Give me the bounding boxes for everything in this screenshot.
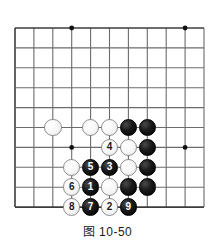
star-point-2 <box>69 145 74 150</box>
black-move-7[interactable]: 7 <box>82 198 100 216</box>
stone-label: 3 <box>107 162 113 172</box>
stone-label: 7 <box>88 202 94 212</box>
stone-label: 2 <box>107 202 113 212</box>
white-move-2[interactable]: 2 <box>101 198 119 216</box>
black-stone-c7r6[interactable] <box>139 139 157 157</box>
stone-label: 8 <box>69 202 75 212</box>
star-point-0 <box>69 26 74 31</box>
star-point-3 <box>183 145 188 150</box>
figure-caption: 图 10-50 <box>0 222 215 239</box>
go-diagram-figure: 453618729 图 10-50 <box>0 0 215 248</box>
stone-label: 9 <box>126 202 132 212</box>
black-stone-c7r7[interactable] <box>139 159 157 177</box>
black-move-9[interactable]: 9 <box>120 198 138 216</box>
white-stone-c2r5[interactable] <box>44 119 62 137</box>
black-stone-c6r8[interactable] <box>120 178 138 196</box>
black-stone-c7r8[interactable] <box>139 178 157 196</box>
star-point-1 <box>183 26 188 31</box>
white-stone-c5r8[interactable] <box>101 178 119 196</box>
stone-label: 1 <box>88 182 94 192</box>
go-board[interactable]: 453618729 <box>0 0 215 215</box>
white-stone-c6r7[interactable] <box>120 159 138 177</box>
stone-label: 5 <box>88 162 94 172</box>
stone-label: 6 <box>69 182 75 192</box>
stone-label: 4 <box>107 142 113 152</box>
